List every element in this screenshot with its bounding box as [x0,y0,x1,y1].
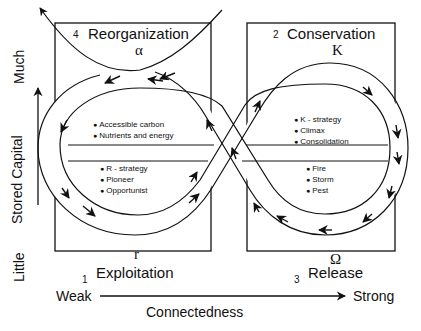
y-axis-low: Little [12,252,26,282]
conservation-items: K - strategy Climax Consolidation [294,114,349,147]
conservation-number: 2 [273,30,279,40]
list-item: Pest [306,185,334,196]
reorganization-items: Accessible carbon Nutrients and energy [93,119,174,141]
list-item: Opportunist [100,185,148,196]
x-axis-high: Strong [353,289,394,303]
list-item: Climax [294,125,349,136]
y-axis-label: Stored Capital [10,135,24,224]
list-item: Nutrients and energy [93,130,174,141]
list-item: Pioneer [100,174,148,185]
k-symbol: K [332,43,343,58]
reorganization-title: Reorganization [88,26,189,41]
list-item: Fire [306,163,334,174]
list-item: K - strategy [294,114,349,125]
release-number: 3 [294,275,300,285]
y-axis-high: Much [12,50,26,84]
adaptive-cycle-diagram [0,0,421,331]
release-items: Fire Storm Pest [306,163,334,196]
list-item: Accessible carbon [93,119,174,130]
exploitation-items: R - strategy Pioneer Opportunist [100,163,148,196]
x-axis-label: Connectedness [146,305,243,319]
exploitation-title: Exploitation [96,265,174,280]
r-symbol: r [134,247,139,262]
exploitation-number: 1 [82,275,88,285]
release-title: Release [308,265,363,280]
alpha-symbol: α [135,43,143,58]
list-item: Consolidation [294,136,349,147]
reorganization-number: 4 [73,30,79,40]
list-item: R - strategy [100,163,148,174]
conservation-title: Conservation [287,26,375,41]
list-item: Storm [306,174,334,185]
x-axis-low: Weak [56,289,92,303]
